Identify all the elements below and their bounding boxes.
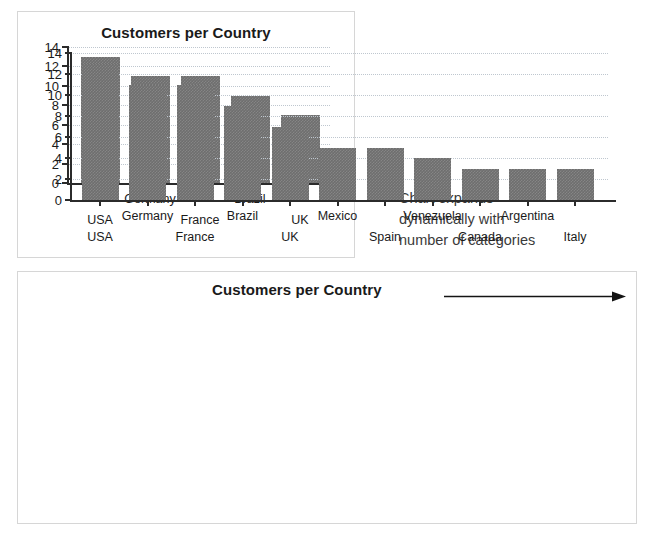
large-chart-x-axis	[70, 200, 616, 202]
x-axis-tick-label: Spain	[369, 230, 401, 244]
small-chart-title: Customers per Country	[18, 24, 354, 41]
x-axis-tick	[147, 201, 149, 206]
y-axis-tick-label: 14	[48, 46, 62, 61]
bar	[129, 85, 166, 201]
x-axis-tick-label: France	[176, 230, 215, 244]
y-axis-tick-label: 10	[48, 88, 62, 103]
y-axis-tick	[65, 52, 71, 54]
right-arrow-icon	[444, 291, 626, 302]
x-axis-tick	[574, 201, 576, 206]
x-axis-tick-label: Argentina	[501, 209, 555, 223]
y-axis-tick-label: 0	[55, 193, 62, 208]
x-axis-tick	[242, 201, 244, 206]
x-axis-tick-label: UK	[291, 213, 308, 227]
y-axis-tick	[62, 104, 68, 106]
y-axis-tick	[65, 157, 71, 159]
x-axis-tick-label: Mexico	[318, 209, 358, 223]
large-chart-panel: Customers per Country	[17, 271, 637, 524]
y-axis-tick	[62, 85, 68, 87]
y-axis-tick	[62, 124, 68, 126]
y-axis-tick-label: 12	[48, 67, 62, 82]
y-axis-tick-label: 4	[55, 151, 62, 166]
x-axis-tick-label: USA	[87, 230, 113, 244]
bar	[414, 158, 451, 200]
y-axis-tick-label: 2	[55, 172, 62, 187]
x-axis-tick-label: France	[181, 213, 220, 227]
x-axis-tick-label: Germany	[122, 209, 173, 223]
x-axis-tick-label: Italy	[564, 230, 587, 244]
bar	[367, 148, 404, 201]
x-axis-tick	[194, 201, 196, 206]
bar	[509, 169, 546, 201]
large-chart-plot-area: 02468101214	[71, 53, 608, 200]
x-axis-tick-label: Brazil	[227, 209, 258, 223]
y-axis-tick	[62, 182, 68, 184]
x-axis-tick	[289, 201, 291, 206]
bar	[462, 169, 499, 201]
bar	[557, 169, 594, 201]
y-axis-tick	[65, 94, 71, 96]
large-chart-bars	[71, 53, 608, 200]
y-axis-tick	[62, 163, 68, 165]
bar	[272, 127, 309, 201]
y-axis-tick	[65, 136, 71, 138]
x-axis-tick	[479, 201, 481, 206]
y-axis-tick	[65, 115, 71, 117]
y-axis-tick	[65, 178, 71, 180]
x-axis-tick-label: Venezuela	[403, 209, 461, 223]
x-axis-tick	[432, 201, 434, 206]
y-axis-tick	[62, 46, 68, 48]
bar	[224, 106, 261, 201]
x-axis-tick	[99, 201, 101, 206]
y-axis-tick	[65, 73, 71, 75]
x-axis-tick-label: UK	[281, 230, 298, 244]
y-axis-tick	[65, 199, 71, 201]
bar	[82, 64, 119, 201]
x-axis-tick	[527, 201, 529, 206]
bar	[319, 148, 356, 201]
bar	[177, 85, 214, 201]
large-chart-title: Customers per Country	[212, 281, 382, 298]
x-axis-tick-label: USA	[87, 213, 113, 227]
y-axis-tick-label: 8	[55, 109, 62, 124]
x-axis-tick-label: Canada	[458, 230, 502, 244]
y-axis-tick	[62, 65, 68, 67]
y-axis-tick-label: 6	[55, 130, 62, 145]
x-axis-tick	[384, 201, 386, 206]
y-axis-tick	[62, 143, 68, 145]
x-axis-tick	[337, 201, 339, 206]
